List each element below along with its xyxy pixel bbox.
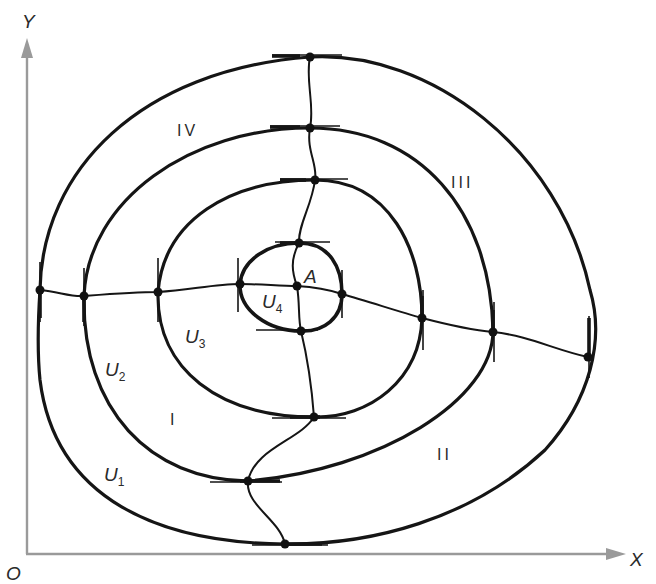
region-label-iv: IV — [177, 122, 198, 139]
node — [244, 477, 253, 486]
x-axis-label: X — [629, 549, 644, 570]
origin-label: O — [6, 563, 21, 584]
labels: Y X O A U1 U2 U3 U4 I II III IV — [6, 11, 644, 584]
region-label-iii: III — [451, 174, 473, 191]
curve-u3 — [158, 180, 422, 417]
label-u4: U4 — [262, 291, 283, 316]
node — [584, 353, 593, 362]
x-axis-arrowhead — [606, 548, 626, 560]
node — [36, 286, 45, 295]
node — [297, 327, 306, 336]
y-axis-label: Y — [22, 11, 36, 32]
region-label-ii: II — [437, 446, 452, 463]
node — [310, 413, 319, 422]
node — [338, 290, 347, 299]
point-a-label: A — [303, 266, 317, 287]
node — [295, 239, 304, 248]
node — [418, 314, 427, 323]
node — [80, 292, 89, 301]
node — [236, 280, 245, 289]
node — [154, 288, 163, 297]
level-set-diagram: Y X O A U1 U2 U3 U4 I II III IV — [0, 0, 656, 584]
curve-u4 — [240, 243, 342, 331]
level-curves — [38, 57, 596, 544]
y-axis-arrowhead — [21, 38, 33, 58]
region-label-i: I — [170, 411, 177, 428]
label-u1: U1 — [104, 464, 125, 489]
node — [489, 328, 498, 337]
node — [281, 540, 290, 549]
label-u3: U3 — [185, 326, 206, 351]
node — [306, 124, 315, 133]
node-point-a — [293, 282, 302, 291]
horizontal-transverse — [40, 284, 588, 357]
label-u2: U2 — [105, 359, 126, 384]
node — [306, 53, 315, 62]
node — [311, 176, 320, 185]
